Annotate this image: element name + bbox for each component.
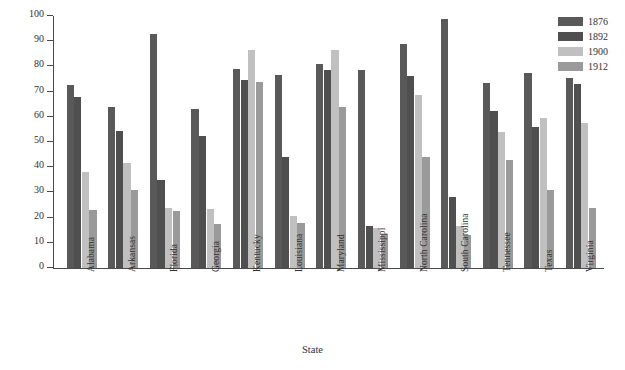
x-tick-label: Texas [544,249,554,272]
bar [324,70,331,268]
bar [358,70,365,268]
bar [449,197,456,268]
bar [116,131,123,268]
bar [74,97,81,268]
y-tick: 100 [47,15,53,16]
x-tick-label: South Carolina [460,213,470,272]
bar [566,78,573,268]
bar-group [191,16,221,268]
legend-swatch [558,32,583,41]
y-axis-line [53,16,54,268]
chart-legend: 1876189219001912 [558,14,622,74]
bar [199,136,206,268]
y-tick-label: 60 [34,109,44,120]
x-tick-label: Georgia [211,241,221,272]
legend-label: 1892 [588,31,608,42]
bar-group [524,16,554,268]
x-tick-label: North Carolina [419,213,429,272]
plot-area: 1009080706050403020100 AlabamaArkansasFl… [53,16,604,268]
bar [275,75,282,268]
bar [67,85,74,268]
y-tick-label: 40 [34,159,44,170]
bar-chart: Percentage of Eligible Voters 1009080706… [0,0,625,370]
y-tick-label: 10 [34,235,44,246]
x-axis-title: State [0,344,625,355]
x-tick-label: Louisiana [294,234,304,272]
bar-group [108,16,138,268]
bar [241,80,248,268]
y-tick-label: 100 [29,8,44,19]
y-tick: 90 [47,40,53,41]
bar [400,44,407,268]
chart-title [150,0,570,4]
x-tick-label: Mississippi [377,228,387,272]
legend-swatch [558,17,583,26]
bar [490,111,497,269]
bar [366,226,373,268]
bar [316,64,323,268]
legend-item: 1876 [558,14,622,28]
bar-group [316,16,346,268]
legend-swatch [558,47,583,56]
y-tick-label: 90 [34,33,44,44]
y-tick: 50 [47,141,53,142]
bar-group [67,16,97,268]
y-tick: 70 [47,91,53,92]
x-tick-label: Arkansas [127,236,137,272]
x-tick-label: Florida [169,244,179,272]
y-tick-label: 70 [34,84,44,95]
bar-group [150,16,180,268]
legend-label: 1912 [588,61,608,72]
x-tick-label: Tennessee [502,232,512,272]
y-tick-label: 30 [34,184,44,195]
y-tick: 60 [47,116,53,117]
x-tick-label: Alabama [86,237,96,272]
y-tick: 80 [47,65,53,66]
y-tick: 0 [47,267,53,268]
y-tick-label: 80 [34,58,44,69]
legend-swatch [558,62,583,71]
legend-label: 1876 [588,16,608,27]
bar-group [483,16,513,268]
bar [150,34,157,268]
bar [157,180,164,268]
bar-group [233,16,263,268]
y-tick: 20 [47,217,53,218]
y-tick-label: 0 [39,260,44,271]
y-tick-label: 20 [34,210,44,221]
bar [191,109,198,268]
bar [407,76,414,268]
bar [483,83,490,268]
legend-item: 1892 [558,29,622,43]
bar [233,69,240,268]
x-tick-label: Virginia [585,240,595,272]
x-tick-label: Maryland [336,234,346,272]
x-tick-label: Kentucky [252,234,262,272]
legend-item: 1912 [558,59,622,73]
y-tick-label: 50 [34,134,44,145]
y-tick: 30 [47,191,53,192]
legend-label: 1900 [588,46,608,57]
bar [540,118,547,268]
bar [282,157,289,268]
bar-group [275,16,305,268]
y-tick: 40 [47,166,53,167]
legend-item: 1900 [558,44,622,58]
y-tick: 10 [47,242,53,243]
bar [441,19,448,268]
bar [108,107,115,268]
bar [574,84,581,268]
bar [532,127,539,268]
bar [524,73,531,268]
